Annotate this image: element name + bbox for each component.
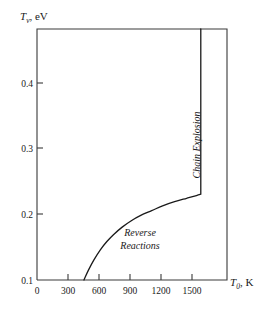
y-axis-label: Tv, eV — [20, 10, 48, 25]
y-tick-label-3: 0.4 — [21, 79, 33, 89]
reverse-reactions-label: Reverse Reactions — [119, 227, 160, 251]
y-axis-tick-labels: 0.4 0.3 0.2 0.1 — [21, 79, 33, 286]
y-tick-label-2: 0.3 — [21, 144, 33, 154]
x-tick-label-3: 900 — [123, 286, 138, 296]
x-tick-label-0: 0 — [35, 286, 40, 296]
x-tick-label-4: 1200 — [152, 286, 171, 296]
svg-text:Tv, eV: Tv, eV — [20, 10, 48, 25]
svg-text:T0, K: T0, K — [230, 276, 253, 291]
x-tick-label-5: 1500 — [183, 286, 202, 296]
x-tick-label-2: 600 — [92, 286, 107, 296]
chain-explosion-label: Chain Explosion — [191, 112, 202, 179]
x-tick-label-1: 300 — [61, 286, 76, 296]
y-axis-ticks — [37, 83, 43, 214]
x-axis-tick-labels: 0 300 600 900 1200 1500 — [35, 286, 202, 296]
reverse-reactions-label-line2: Reactions — [119, 240, 160, 251]
x-axis-label-unit: , K — [240, 276, 254, 288]
y-axis-label-unit: , eV — [29, 10, 47, 22]
chart-figure: 0.4 0.3 0.2 0.1 0 300 600 900 1200 1500 … — [0, 0, 259, 314]
x-axis-label: T0, K — [230, 276, 253, 291]
plot-svg: 0.4 0.3 0.2 0.1 0 300 600 900 1200 1500 … — [0, 0, 259, 314]
y-tick-label-1: 0.2 — [21, 210, 33, 220]
y-tick-label-0: 0.1 — [21, 276, 33, 286]
reverse-reactions-label-line1: Reverse — [123, 227, 156, 238]
